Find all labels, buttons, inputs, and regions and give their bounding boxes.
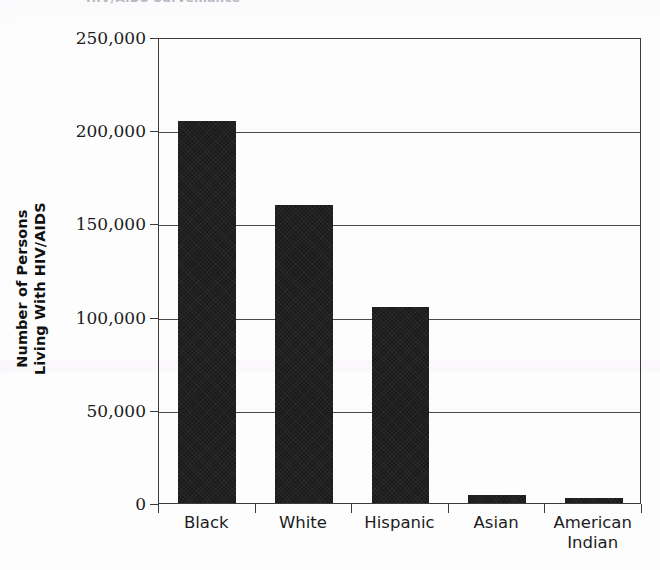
x-axis-label-asian: Asian — [448, 513, 545, 533]
x-axis-label-line: White — [255, 513, 352, 533]
x-axis-label-line: Indian — [544, 533, 641, 553]
y-tick-label: 250,000 — [46, 28, 146, 48]
bar-american-indian — [565, 498, 623, 503]
x-axis-tick — [544, 504, 545, 513]
bar-hispanic — [372, 307, 430, 503]
y-tick-label: 150,000 — [46, 214, 146, 234]
bar-white — [275, 205, 333, 503]
x-axis-label-line: Asian — [448, 513, 545, 533]
y-tick-label: 200,000 — [46, 121, 146, 141]
y-axis-tick — [150, 318, 158, 319]
y-axis-title-line-1: Number of Persons — [14, 174, 32, 404]
x-axis-label-american-indian: AmericanIndian — [544, 513, 641, 553]
x-axis-label-hispanic: Hispanic — [351, 513, 448, 533]
y-axis-tick-labels: 250,000 200,000 150,000 100,000 50,000 0 — [36, 0, 146, 570]
y-tick-label: 0 — [46, 494, 146, 514]
x-axis-label-line: Hispanic — [351, 513, 448, 533]
bar-chart: Number of Persons Living With HIV/AIDS 2… — [0, 0, 660, 570]
y-axis-tick — [150, 131, 158, 132]
x-axis-label-line: American — [544, 513, 641, 533]
y-axis-tick — [150, 504, 158, 505]
plot-area — [158, 38, 641, 504]
x-axis-label-line: Black — [158, 513, 255, 533]
x-axis-tick — [255, 504, 256, 513]
x-axis-tick — [158, 504, 159, 513]
bar-black — [178, 121, 236, 503]
y-tick-label: 50,000 — [46, 401, 146, 421]
x-axis-tick — [641, 504, 642, 513]
x-axis-tick — [448, 504, 449, 513]
x-axis-label-white: White — [255, 513, 352, 533]
bar-asian — [468, 495, 526, 503]
y-axis-tick — [150, 224, 158, 225]
y-axis-tick — [150, 38, 158, 39]
y-tick-label: 100,000 — [46, 308, 146, 328]
x-axis-label-black: Black — [158, 513, 255, 533]
x-axis-tick — [351, 504, 352, 513]
y-axis-tick — [150, 411, 158, 412]
